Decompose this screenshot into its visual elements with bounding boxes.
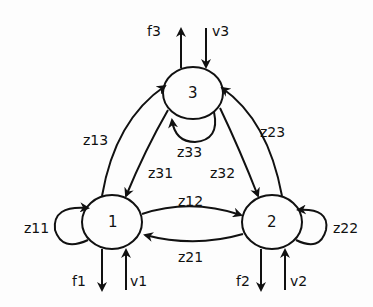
edge-z32 bbox=[220, 108, 258, 196]
node-2-label: 2 bbox=[267, 213, 277, 231]
diagram-svg: 3 1 2 f3 v3 z13 z23 z33 z31 z32 z12 z11 … bbox=[0, 0, 373, 307]
label-z12: z12 bbox=[178, 193, 203, 209]
label-z32: z32 bbox=[210, 165, 235, 181]
label-z22: z22 bbox=[333, 220, 358, 236]
edge-z21 bbox=[145, 234, 243, 241]
label-v1: v1 bbox=[130, 273, 147, 289]
node-1-label: 1 bbox=[108, 213, 118, 231]
label-v2: v2 bbox=[290, 273, 307, 289]
label-z31: z31 bbox=[148, 165, 173, 181]
edge-z31 bbox=[126, 110, 168, 196]
node-3-label: 3 bbox=[188, 84, 198, 102]
label-z21: z21 bbox=[178, 249, 203, 265]
label-f3: f3 bbox=[147, 23, 161, 39]
label-v3: v3 bbox=[212, 23, 229, 39]
label-z23: z23 bbox=[260, 124, 285, 140]
label-f1: f1 bbox=[72, 273, 86, 289]
label-z11: z11 bbox=[24, 220, 49, 236]
compartment-diagram: 3 1 2 f3 v3 z13 z23 z33 z31 z32 z12 z11 … bbox=[0, 0, 373, 307]
label-f2: f2 bbox=[236, 273, 250, 289]
label-z13: z13 bbox=[83, 132, 108, 148]
label-z33: z33 bbox=[177, 144, 202, 160]
